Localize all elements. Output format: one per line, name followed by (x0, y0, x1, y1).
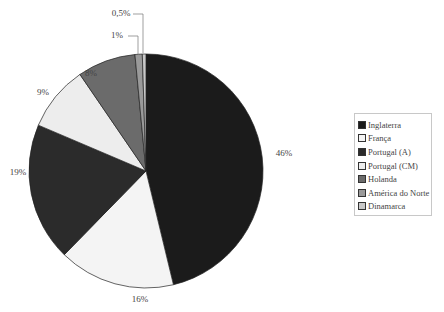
chart-legend: Inglaterra França Portugal (A) Portugal … (354, 113, 432, 216)
slice-label: 9% (37, 87, 50, 97)
legend-label: Holanda (368, 174, 397, 184)
legend-label: Portugal (CM) (368, 161, 418, 171)
legend-swatch (358, 162, 366, 170)
legend-swatch (358, 121, 366, 129)
slice-label: 0,5% (112, 8, 131, 18)
legend-item-inglaterra: Inglaterra (358, 118, 431, 132)
legend-label: França (368, 133, 391, 143)
legend-swatch (358, 175, 366, 183)
legend-label: Inglaterra (368, 120, 401, 130)
slice-label: 19% (10, 167, 27, 177)
legend-item-portugal-a: Portugal (A) (358, 145, 431, 159)
legend-item-portugal-cm: Portugal (CM) (358, 159, 431, 173)
legend-swatch (358, 134, 366, 142)
leader-line (128, 36, 138, 54)
legend-item-holanda: Holanda (358, 172, 431, 186)
slice-label: 46% (276, 148, 293, 158)
legend-label: Dinamarca (368, 201, 405, 211)
slice-label: 16% (132, 294, 149, 304)
slice-label: 1% (111, 30, 124, 40)
legend-swatch (358, 148, 366, 156)
slice-label: 8% (85, 68, 98, 78)
legend-swatch (358, 202, 366, 210)
legend-label: Portugal (A) (368, 147, 411, 157)
legend-item-dinamarca: Dinamarca (358, 200, 431, 214)
legend-swatch (358, 189, 366, 197)
legend-item-franca: França (358, 132, 431, 146)
legend-label: América do Norte (368, 188, 429, 198)
legend-item-america-do-norte: América do Norte (358, 186, 431, 200)
